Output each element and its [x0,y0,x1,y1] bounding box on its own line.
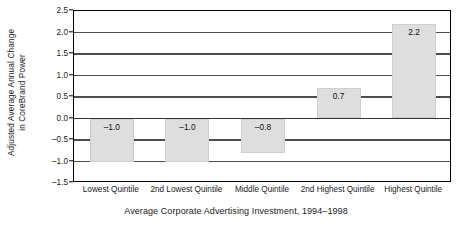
y-axis-tick-mark [69,117,73,118]
bar [392,24,436,119]
bar-value-label: –1.0 [179,122,195,132]
y-axis-tick-mark [69,52,73,53]
y-axis-tick-mark [69,138,73,139]
y-axis-tick-mark [69,160,73,161]
y-axis-tick-mark [69,9,73,10]
bar-value-label: 0.7 [333,91,345,101]
chart-figure: Adjusted Average Annual Change in CoreBr… [0,0,472,230]
x-axis-tick-label: Middle Quintile [235,185,289,194]
bar-value-label: –1.0 [104,122,120,132]
y-axis-tick-label: –1.0 [52,156,68,165]
y-axis-tick-label: 2.0 [57,27,68,36]
x-axis-tick-label: Lowest Quintile [83,185,139,194]
x-axis-tick-labels: Lowest Quintile2nd Lowest QuintileMiddle… [73,185,451,199]
y-axis-tick-label: 2.5 [57,6,68,15]
x-axis-tick-label: 2nd Lowest Quintile [150,185,222,194]
y-axis-tick-label: 0.5 [57,92,68,101]
y-axis-title-line2: in CoreBrand Power [18,29,29,156]
y-axis-tick-label: –0.5 [52,135,68,144]
x-axis-tick-label: Highest Quintile [384,185,442,194]
y-axis-tick-labels: 2.52.01.51.00.50.0–0.5–1.0–1.5 [36,10,71,182]
y-axis-title-line1: Adjusted Average Annual Change [8,29,17,156]
y-axis-tick-label: 0.0 [57,113,68,122]
x-axis-title: Average Corporate Advertising Investment… [0,206,472,216]
plot-area: –1.0–1.0–0.80.72.2 [73,10,451,182]
y-axis-tick-mark [69,74,73,75]
y-axis-title: Adjusted Average Annual Change in CoreBr… [0,0,36,185]
y-axis-tick-mark [69,181,73,182]
y-axis-tick-mark [69,95,73,96]
bar-value-label: –0.8 [255,122,271,132]
y-axis-tick-label: 1.5 [57,49,68,58]
bar-value-label: 2.2 [408,27,420,37]
y-axis-tick-label: –1.5 [52,178,68,187]
y-axis-tick-mark [69,31,73,32]
x-axis-tick-label: 2nd Highest Quintile [301,185,375,194]
y-axis-tick-label: 1.0 [57,70,68,79]
